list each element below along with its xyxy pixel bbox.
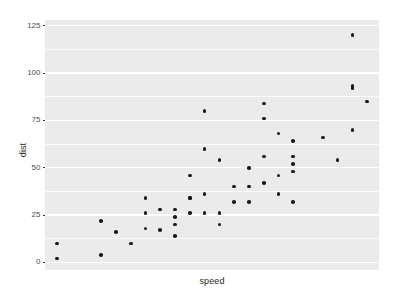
data-point	[173, 234, 177, 238]
data-point	[291, 162, 295, 166]
y-axis-tick-label: 50	[32, 163, 43, 173]
data-point	[158, 208, 162, 212]
data-point	[173, 223, 177, 227]
gridline-major	[45, 214, 379, 215]
data-point	[203, 192, 207, 196]
plot-panel	[45, 20, 379, 270]
scatter-plot-figure: dist 0255075100125 speed	[0, 0, 393, 300]
y-axis-tick: 25	[32, 210, 45, 220]
data-point	[262, 117, 266, 121]
gridline-minor	[45, 238, 379, 239]
gridline-major	[45, 72, 379, 73]
data-point	[277, 192, 281, 196]
data-point	[173, 215, 177, 219]
data-point	[291, 170, 295, 174]
data-point	[218, 211, 222, 215]
y-axis-tick-label: 125	[27, 21, 42, 31]
data-point	[232, 185, 236, 189]
data-point	[173, 208, 177, 212]
x-axis-title: speed	[45, 276, 379, 286]
data-point	[232, 200, 236, 204]
data-point	[321, 136, 325, 140]
data-point	[129, 242, 133, 246]
data-point	[291, 155, 295, 159]
data-point	[262, 155, 266, 159]
y-axis-ticks: 0255075100125	[0, 0, 45, 300]
data-point	[218, 223, 222, 227]
gridline-major	[45, 167, 379, 168]
gridline-minor	[45, 49, 379, 50]
data-point	[365, 100, 369, 104]
data-point	[336, 158, 340, 162]
data-point	[188, 211, 192, 215]
data-point	[144, 196, 148, 200]
data-point	[218, 158, 222, 162]
data-point	[99, 219, 103, 223]
y-axis-tick-label: 25	[32, 210, 43, 220]
data-point	[291, 139, 295, 143]
gridline-minor	[45, 96, 379, 97]
data-point	[247, 166, 251, 170]
data-point	[55, 242, 59, 246]
data-point	[99, 253, 103, 257]
y-axis-tick: 125	[27, 21, 45, 31]
data-point	[262, 102, 266, 106]
y-axis-tick-label: 75	[32, 115, 43, 125]
y-axis-tick: 0	[36, 257, 45, 267]
data-point	[277, 174, 281, 178]
data-point	[277, 132, 281, 136]
data-point	[114, 230, 118, 234]
y-axis-tick: 50	[32, 163, 45, 173]
data-point	[247, 200, 251, 204]
data-point	[291, 200, 295, 204]
data-point	[55, 257, 59, 261]
y-axis-tick: 100	[27, 68, 45, 78]
data-point	[351, 128, 355, 132]
y-axis-tick-label: 100	[27, 68, 42, 78]
data-point	[203, 147, 207, 151]
data-point	[144, 227, 148, 231]
y-axis-tick: 75	[32, 115, 45, 125]
data-point	[188, 196, 192, 200]
gridline-major	[45, 120, 379, 121]
data-point	[247, 185, 251, 189]
data-point	[158, 228, 162, 232]
gridline-minor	[45, 144, 379, 145]
gridline-minor	[45, 191, 379, 192]
gridline-major	[45, 262, 379, 263]
data-point	[351, 33, 355, 37]
data-point	[188, 174, 192, 178]
data-point	[262, 181, 266, 185]
gridline-major	[45, 25, 379, 26]
data-point	[203, 109, 207, 113]
